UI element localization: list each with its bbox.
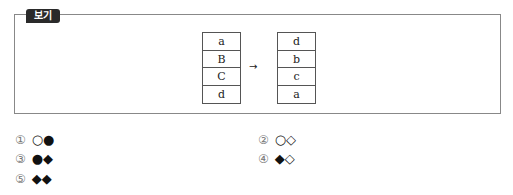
option-number: ③	[15, 152, 26, 166]
before-stack: a B C d	[202, 32, 241, 104]
option-symbols: ○◇	[275, 132, 296, 147]
option-number: ④	[258, 152, 269, 166]
stack-cell: a	[278, 86, 315, 104]
option-1[interactable]: ①○●	[15, 132, 54, 147]
stack-cell: a	[203, 33, 240, 51]
example-box	[14, 14, 501, 114]
example-tag: 보기	[26, 9, 60, 23]
stack-cell: b	[278, 51, 315, 69]
arrow-icon: →	[249, 61, 257, 72]
option-2[interactable]: ②○◇	[258, 132, 296, 147]
option-5[interactable]: ⑤◆◆	[15, 171, 52, 186]
stack-cell: d	[203, 86, 240, 104]
stack-cell: C	[203, 68, 240, 86]
option-symbols: ●◆	[32, 151, 53, 166]
option-3[interactable]: ③●◆	[15, 151, 53, 166]
option-symbols: ○●	[32, 132, 55, 147]
stack-cell: c	[278, 68, 315, 86]
option-symbols: ◆◇	[275, 151, 295, 166]
after-stack: d b c a	[277, 32, 316, 104]
option-number: ②	[258, 133, 269, 147]
option-symbols: ◆◆	[32, 171, 52, 186]
option-4[interactable]: ④◆◇	[258, 151, 295, 166]
stack-cell: B	[203, 51, 240, 69]
stack-cell: d	[278, 33, 315, 51]
option-number: ⑤	[15, 172, 26, 186]
option-number: ①	[15, 133, 26, 147]
